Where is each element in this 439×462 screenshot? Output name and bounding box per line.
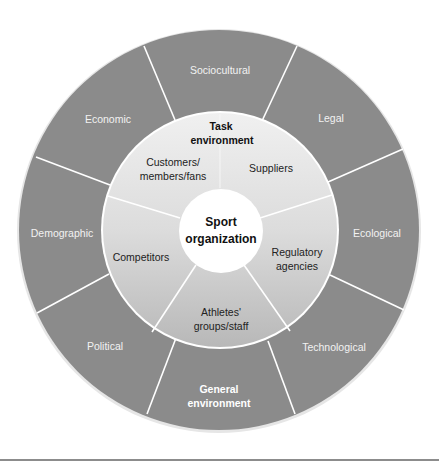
task-segment-customers-line1: Customers/	[146, 156, 200, 168]
general-segment-legal: Legal	[318, 112, 344, 124]
general-segment-demographic: Demographic	[31, 227, 93, 239]
task-segment-regulatory-line1: Regulatory	[272, 246, 324, 258]
task-segment-athletes-line1: Athletes'	[201, 306, 241, 318]
bottom-rule	[0, 459, 439, 461]
task-environment-title-line1: Task	[209, 120, 232, 132]
center-label-line1: Sport	[205, 215, 236, 229]
center-label-line2: organization	[185, 232, 256, 246]
general-segment-ecological: Ecological	[353, 227, 401, 239]
task-segment-regulatory-line2: agencies	[276, 260, 318, 272]
sport-organization-center	[179, 189, 263, 273]
general-segment-technological: Technological	[302, 341, 366, 353]
general-environment-title-line1: General	[199, 383, 238, 395]
task-segment-customers-line2: members/fans	[140, 170, 207, 182]
task-segment-competitors: Competitors	[113, 251, 170, 263]
sport-organization-environment-diagram: Sport organization Task environment Cust…	[0, 0, 439, 462]
general-segment-sociocultural: Sociocultural	[190, 64, 250, 76]
task-segment-athletes-line2: groups/staff	[194, 320, 249, 332]
task-segment-suppliers: Suppliers	[249, 162, 293, 174]
general-environment-title-line2: environment	[187, 397, 251, 409]
task-environment-title-line2: environment	[190, 134, 254, 146]
general-segment-political: Political	[87, 340, 123, 352]
general-segment-economic: Economic	[85, 113, 131, 125]
